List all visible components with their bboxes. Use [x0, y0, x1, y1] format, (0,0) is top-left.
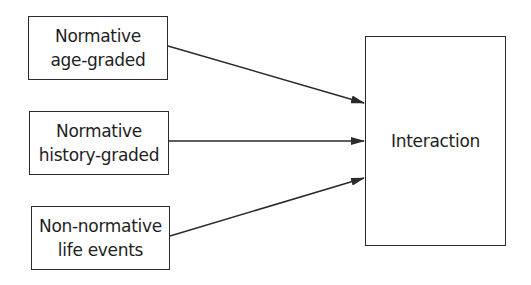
node-normative-age-graded: Normative age-graded	[28, 16, 168, 80]
node-label-line-2: life events	[58, 238, 143, 262]
node-label: Interaction	[391, 129, 480, 153]
node-label-line-1: Normative	[56, 119, 142, 143]
node-non-normative-life-events: Non-normative life events	[31, 206, 170, 270]
arrow-life-events-to-interaction	[170, 178, 364, 236]
node-label-line-2: history-graded	[39, 143, 159, 167]
arrow-age-graded-to-interaction	[168, 46, 364, 103]
node-label-line-1: Normative	[55, 24, 141, 48]
node-normative-history-graded: Normative history-graded	[29, 111, 169, 175]
node-interaction: Interaction	[365, 36, 506, 246]
node-label-line-1: Non-normative	[39, 214, 162, 238]
node-label-line-2: age-graded	[50, 48, 145, 72]
